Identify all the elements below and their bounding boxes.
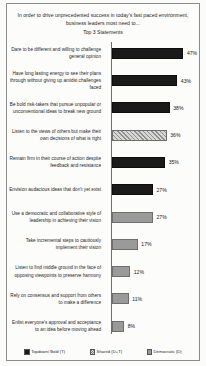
legend-swatch-icon bbox=[90, 349, 95, 354]
bar-container: 17% bbox=[112, 239, 199, 250]
bar-row: Dare to be different and willing to chal… bbox=[7, 40, 199, 67]
bar-shared bbox=[112, 130, 167, 141]
chart-card: In order to drive unprecedented success … bbox=[6, 3, 200, 361]
category-label: Envision audacious ideas that don't yet … bbox=[7, 186, 105, 193]
bar-democratic bbox=[112, 212, 153, 223]
bar-democratic bbox=[112, 321, 124, 332]
bar-topdown bbox=[112, 157, 165, 168]
bar-row: Remain firm in their course of action de… bbox=[7, 149, 199, 176]
bar-value-label: 8% bbox=[128, 323, 135, 329]
category-label: Take incremental steps to cautiously imp… bbox=[7, 237, 105, 252]
bar-container: 27% bbox=[112, 212, 199, 223]
bar-row: Take incremental steps to cautiously imp… bbox=[7, 231, 199, 258]
chart-title: In order to drive unprecedented success … bbox=[15, 11, 191, 28]
bar-value-label: 36% bbox=[170, 132, 180, 138]
legend-label: Topdown/ Bold (T) bbox=[31, 349, 65, 354]
legend-item-topdown[interactable]: Topdown/ Bold (T) bbox=[24, 349, 65, 354]
bar-row: Envision audacious ideas that don't yet … bbox=[7, 176, 199, 203]
bar-row: Rely on consensus and support from other… bbox=[7, 285, 199, 312]
bar-container: 8% bbox=[112, 321, 199, 332]
bar-topdown bbox=[112, 75, 177, 86]
bar-container: 43% bbox=[112, 75, 199, 86]
bar-container: 27% bbox=[112, 184, 199, 195]
bar-value-label: 47% bbox=[187, 50, 197, 56]
bar-value-label: 11% bbox=[132, 296, 142, 302]
bar-democratic bbox=[112, 293, 129, 304]
category-label: Dare to be different and willing to chal… bbox=[7, 46, 105, 61]
bar-value-label: 17% bbox=[141, 241, 151, 247]
legend-swatch-icon bbox=[24, 349, 29, 354]
bar-value-label: 27% bbox=[157, 187, 167, 193]
plot-area: Dare to be different and willing to chal… bbox=[7, 40, 199, 346]
bar-row: Have long lasting energy to see their pl… bbox=[7, 67, 199, 94]
legend-label: Democratic (D) bbox=[154, 349, 182, 354]
bar-row: Listen to find middle ground in the face… bbox=[7, 258, 199, 285]
bar-container: 35% bbox=[112, 157, 199, 168]
bar-value-label: 12% bbox=[134, 269, 144, 275]
legend-item-democratic[interactable]: Democratic (D) bbox=[147, 349, 182, 354]
bar-value-label: 43% bbox=[181, 78, 191, 84]
bar-topdown bbox=[112, 48, 183, 59]
bar-row: Use a democratic and collaborative style… bbox=[7, 203, 199, 230]
category-label: Be bold risk-takers that pursue unpopula… bbox=[7, 101, 105, 116]
bar-democratic bbox=[112, 266, 130, 277]
legend-label: Shared (D+T) bbox=[97, 349, 122, 354]
category-label: Use a democratic and collaborative style… bbox=[7, 210, 105, 225]
bar-topdown bbox=[112, 102, 170, 113]
bar-topdown bbox=[112, 184, 153, 195]
chart-legend: Topdown/ Bold (T)Shared (D+T)Democratic … bbox=[7, 346, 199, 360]
bar-container: 12% bbox=[112, 266, 199, 277]
chart-subtitle: Top 3 Statements bbox=[15, 28, 191, 36]
category-label: Have long lasting energy to see their pl… bbox=[7, 70, 105, 92]
bar-value-label: 35% bbox=[169, 159, 179, 165]
bar-democratic bbox=[112, 239, 138, 250]
bar-row: Enlist everyone's approval and acceptanc… bbox=[7, 312, 199, 339]
bar-value-label: 38% bbox=[173, 105, 183, 111]
bar-container: 36% bbox=[112, 130, 199, 141]
bar-row: Be bold risk-takers that pursue unpopula… bbox=[7, 94, 199, 121]
bar-row: Listen to the views of others but make t… bbox=[7, 122, 199, 149]
bar-container: 47% bbox=[112, 48, 199, 59]
category-label: Listen to find middle ground in the face… bbox=[7, 264, 105, 279]
category-label: Rely on consensus and support from other… bbox=[7, 292, 105, 307]
category-label: Remain firm in their course of action de… bbox=[7, 155, 105, 170]
category-label: Enlist everyone's approval and acceptanc… bbox=[7, 319, 105, 334]
category-label: Listen to the views of others but make t… bbox=[7, 128, 105, 143]
scanned-page-background: In order to drive unprecedented success … bbox=[0, 0, 206, 366]
legend-swatch-icon bbox=[147, 349, 152, 354]
bar-container: 11% bbox=[112, 293, 199, 304]
bar-value-label: 27% bbox=[157, 214, 167, 220]
legend-item-shared[interactable]: Shared (D+T) bbox=[90, 349, 122, 354]
bar-container: 38% bbox=[112, 102, 199, 113]
